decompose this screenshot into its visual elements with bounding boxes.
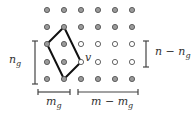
left-bracket-label: ng: [9, 53, 21, 68]
filled-dot: [44, 76, 49, 81]
filled-dot: [112, 76, 117, 81]
filled-dot: [78, 7, 83, 12]
filled-dot: [112, 7, 117, 12]
filled-dot: [95, 24, 100, 29]
filled-dot: [61, 41, 66, 46]
filled-dot: [95, 76, 100, 81]
bottom-right-bracket-label: m − mg: [91, 95, 133, 110]
lattice-dots: [44, 7, 134, 81]
bottom-left-bracket-label: mg: [46, 95, 62, 110]
filled-dot: [61, 24, 66, 29]
filled-dot: [78, 76, 83, 81]
filled-dot: [44, 24, 49, 29]
filled-dot: [95, 7, 100, 12]
open-dot: [78, 59, 83, 64]
filled-dot: [44, 59, 49, 64]
filled-dot: [44, 41, 49, 46]
left-bracket: [32, 41, 38, 84]
filled-dot: [78, 24, 83, 29]
right-bracket-label: n − ng: [155, 45, 191, 60]
open-dot: [95, 41, 100, 46]
open-dot: [95, 59, 100, 64]
open-dot: [129, 59, 134, 64]
filled-dot: [44, 7, 49, 12]
lattice-diagram: v ng n − ng mg m − mg: [0, 0, 195, 114]
filled-dot: [129, 76, 134, 81]
filled-dot: [61, 7, 66, 12]
right-bracket: [143, 41, 149, 67]
open-dot: [78, 41, 83, 46]
filled-dot: [129, 24, 134, 29]
filled-dot: [129, 7, 134, 12]
filled-dot: [61, 76, 66, 81]
parallelogram-outline: [47, 27, 81, 79]
filled-dot: [61, 59, 66, 64]
open-dot: [129, 41, 134, 46]
open-dot: [112, 59, 117, 64]
vertex-label-v: v: [85, 51, 92, 64]
open-dot: [112, 41, 117, 46]
filled-dot: [112, 24, 117, 29]
